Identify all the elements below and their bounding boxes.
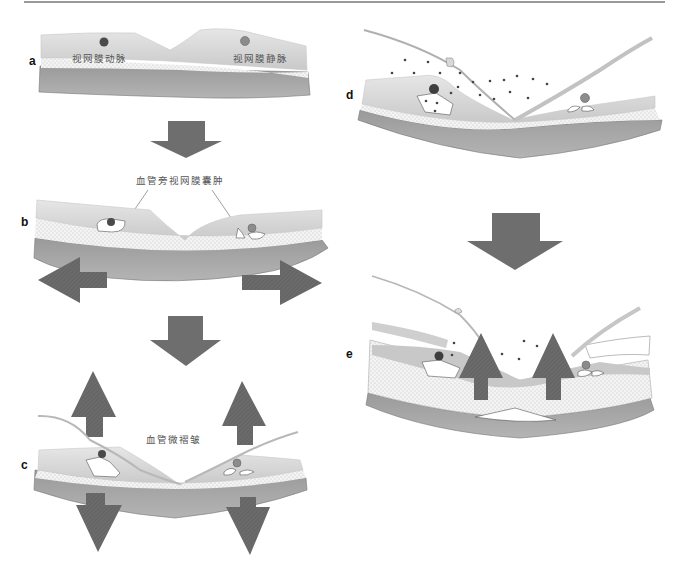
cyst-shape [455, 308, 462, 313]
panel-label-d: d [346, 88, 353, 102]
retina-diagram: a 视网膜动脉 视网膜静脉 血管旁视网膜囊肿 b [0, 0, 681, 567]
panel-b: 血管旁视网膜囊肿 b [21, 175, 328, 305]
panel-c: 血管微褶皱 c [21, 371, 307, 555]
retinal-artery-icon [98, 450, 106, 458]
panel-label-b: b [21, 215, 28, 229]
panel-label-a: a [29, 54, 36, 68]
retinal-artery-icon [435, 352, 444, 361]
panel-e: e [346, 276, 654, 438]
down-arrow-icon [150, 121, 222, 158]
retinal-artery-icon [100, 38, 109, 47]
retinal-vein-icon [233, 459, 241, 467]
retinal-vein-icon [582, 361, 590, 369]
up-arrow-icon [222, 381, 266, 445]
panel-a: a 视网膜动脉 视网膜静脉 [29, 29, 310, 98]
cyst-shape [446, 58, 454, 67]
retinal-vein-icon [581, 94, 590, 103]
choroid-layer [39, 66, 310, 98]
retinal-vein-icon [248, 224, 256, 232]
label-paravascular-cyst: 血管旁视网膜囊肿 [136, 175, 224, 186]
retinal-vein-icon [241, 37, 250, 46]
label-retinal-artery: 视网膜动脉 [72, 53, 127, 64]
label-vascular-microfold: 血管微褶皱 [146, 434, 201, 445]
panel-label-c: c [21, 458, 28, 472]
panel-d: d [346, 30, 662, 158]
down-arrow-icon [467, 213, 563, 270]
panel-label-e: e [346, 347, 353, 361]
down-arrow-icon [150, 316, 221, 366]
retinal-artery-icon [429, 84, 439, 94]
retinal-artery-icon [107, 218, 115, 226]
label-retinal-vein: 视网膜静脉 [233, 53, 288, 64]
